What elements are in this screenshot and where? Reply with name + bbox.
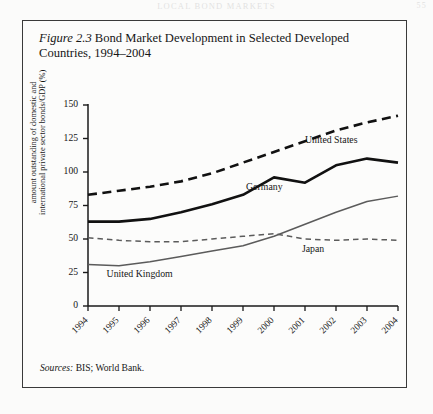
series-line [88,234,398,242]
series-line [88,116,398,195]
source-text: BIS; World Bank. [76,362,145,373]
source-label: Sources: [40,362,73,373]
series-line [88,196,398,266]
series-line [88,159,398,222]
running-title: LOCAL BOND MARKETS [0,1,433,11]
chart-axes [88,104,398,306]
figure-container: Figure 2.3 Bond Market Development in Se… [22,20,407,388]
chart-plot-area: amount outstanding of domestic and inter… [23,21,408,389]
page-number: 55 [417,1,427,10]
chart-canvas [23,21,408,389]
source-note: Sources: BIS; World Bank. [40,362,144,373]
page-running-header: LOCAL BOND MARKETS 55 [0,0,433,16]
